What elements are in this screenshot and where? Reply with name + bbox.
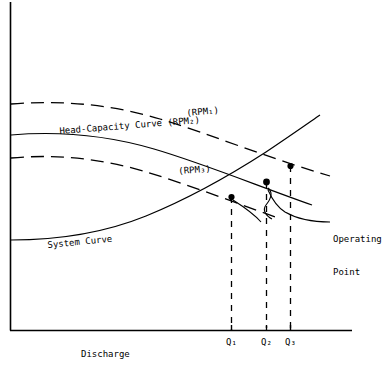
curve-label-rpm3: (RPM₃) — [178, 164, 211, 177]
operating-point-annotation-line1: Operating — [333, 234, 382, 245]
x-axis-title: Discharge — [81, 349, 130, 360]
curve-rpm3 — [11, 157, 281, 219]
operating-point-annotation: Operating Point — [333, 212, 382, 300]
operating-point-leader-q1 — [233, 200, 261, 222]
operating-point-leader-line — [268, 190, 330, 222]
operating-point-marker-q3 — [287, 163, 293, 169]
x-tick-label-q2: Q₂ — [261, 337, 272, 348]
x-tick-label-q3: Q₃ — [285, 337, 296, 348]
operating-point-marker-q1 — [228, 194, 234, 200]
curve-rpm1 — [11, 103, 330, 176]
plot-area — [0, 0, 389, 368]
operating-point-marker-q2 — [263, 179, 270, 186]
operating-point-annotation-line2: Point — [333, 267, 382, 278]
x-tick-label-q1: Q₁ — [226, 337, 237, 348]
pump-system-curve-figure: (RPM₁) Head-Capacity Curve (RPM₂) (RPM₃)… — [0, 0, 389, 368]
